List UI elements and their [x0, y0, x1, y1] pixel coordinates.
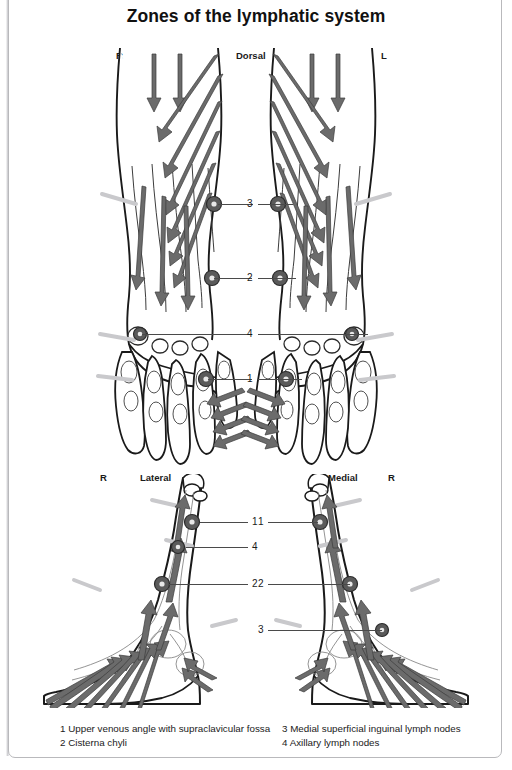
legend-item-1: 1 Upper venous angle with supraclavicula… [60, 722, 290, 736]
callout-medial-1: 1 [258, 516, 264, 527]
leader-lateral-2 [168, 584, 248, 585]
dorsal-figure [96, 46, 396, 466]
leader-upper-4-left [142, 334, 252, 335]
callout-upper-3: 3 [247, 198, 253, 209]
leader-upper-4-right [258, 334, 368, 335]
medial-figure [272, 474, 472, 708]
callout-upper-2: 2 [247, 272, 253, 283]
callout-medial-3: 3 [258, 624, 264, 635]
legend-column-right: 3 Medial superficial inguinal lymph node… [282, 722, 502, 749]
leader-medial-1 [268, 522, 318, 523]
leader-medial-2 [268, 584, 350, 585]
callout-lateral-2: 2 [252, 578, 258, 589]
page-title: Zones of the lymphatic system [0, 6, 512, 27]
callout-lateral-4: 4 [252, 541, 258, 552]
leader-upper-1-right [258, 379, 302, 380]
leader-lateral-1 [200, 522, 248, 523]
legend-item-4: 4 Axillary lymph nodes [282, 736, 502, 750]
legend-column-left: 1 Upper venous angle with supraclavicula… [60, 722, 290, 749]
lateral-figure [40, 474, 240, 708]
leader-upper-2-right [258, 278, 296, 279]
callout-upper-4: 4 [247, 328, 253, 339]
leader-lateral-4 [186, 547, 248, 548]
leader-upper-1-left [208, 379, 252, 380]
legend-item-3: 3 Medial superficial inguinal lymph node… [282, 722, 502, 736]
callout-medial-2: 2 [258, 578, 264, 589]
leader-upper-3-right [258, 204, 293, 205]
callout-upper-1: 1 [247, 373, 253, 384]
legend-item-2: 2 Cisterna chyli [60, 736, 290, 750]
callout-lateral-1: 1 [252, 516, 258, 527]
leader-medial-3 [268, 630, 382, 631]
